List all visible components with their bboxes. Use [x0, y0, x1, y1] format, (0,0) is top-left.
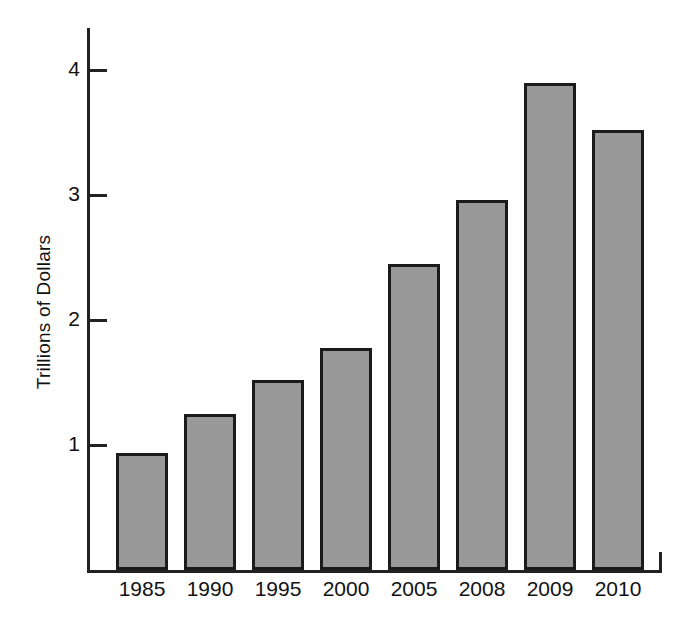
bar-group — [320, 28, 372, 570]
y-tick-label: 4 — [40, 58, 80, 79]
x-tick-label-1995: 1995 — [245, 578, 311, 599]
bar-group — [252, 28, 304, 570]
bar-chart: Trillions of Dollars 1234 19851990199520… — [0, 0, 695, 622]
bar-2009 — [524, 83, 576, 571]
bar-2010 — [592, 130, 644, 570]
x-tick-label-2000: 2000 — [313, 578, 379, 599]
x-tick-label-2009: 2009 — [517, 578, 583, 599]
bar-group — [456, 28, 508, 570]
bar-group — [388, 28, 440, 570]
y-tick-label: 2 — [40, 308, 80, 329]
bar-1990 — [184, 414, 236, 570]
x-tick-label-1990: 1990 — [177, 578, 243, 599]
y-tick-label: 1 — [40, 433, 80, 454]
bar-group — [184, 28, 236, 570]
bar-2005 — [388, 264, 440, 570]
plot-area — [90, 28, 662, 570]
x-axis-spine — [87, 570, 662, 573]
x-tick-label-1985: 1985 — [109, 578, 175, 599]
x-tick-label-2008: 2008 — [449, 578, 515, 599]
y-tick-label: 3 — [40, 183, 80, 204]
x-tick-label-2010: 2010 — [585, 578, 651, 599]
bar-1985 — [116, 453, 168, 571]
bar-group — [592, 28, 644, 570]
bar-group — [524, 28, 576, 570]
bar-group — [116, 28, 168, 570]
x-tick-label-2005: 2005 — [381, 578, 447, 599]
bar-2008 — [456, 200, 508, 570]
bar-2000 — [320, 348, 372, 571]
bar-1995 — [252, 380, 304, 570]
